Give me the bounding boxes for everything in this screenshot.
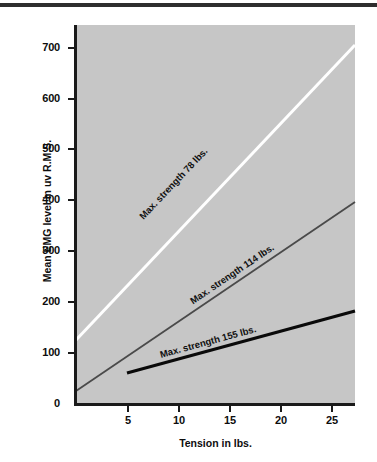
- x-tick-5: [127, 404, 129, 412]
- x-axis-title: Tension in lbs.: [76, 437, 355, 449]
- y-tick-400: [68, 199, 76, 201]
- x-tick-label-5: 5: [113, 414, 143, 426]
- y-axis: [74, 25, 77, 406]
- y-tick-label-200: 200: [16, 295, 60, 307]
- y-tick-label-500: 500: [16, 142, 60, 154]
- x-tick-10: [178, 404, 180, 412]
- x-axis: [74, 403, 355, 406]
- y-tick-300: [68, 250, 76, 252]
- x-tick-label-25: 25: [317, 414, 347, 426]
- x-tick-25: [331, 404, 333, 412]
- y-axis-title: Mean EMG level in uv R.M.S.: [41, 96, 53, 326]
- y-tick-600: [68, 98, 76, 100]
- y-tick-700: [68, 47, 76, 49]
- y-tick-200: [68, 301, 76, 303]
- y-tick-label-400: 400: [16, 193, 60, 205]
- x-tick-label-10: 10: [164, 414, 194, 426]
- x-tick-20: [280, 404, 282, 412]
- x-tick-label-20: 20: [266, 414, 296, 426]
- y-tick-label-700: 700: [16, 41, 60, 53]
- y-tick-100: [68, 352, 76, 354]
- y-tick-500: [68, 148, 76, 150]
- x-tick-15: [229, 404, 231, 412]
- y-tick-label-300: 300: [16, 244, 60, 256]
- emg-tension-chart: 700 600 500 400 300 200 100 0 5 10 15 20…: [0, 0, 377, 462]
- y-tick-label-100: 100: [16, 346, 60, 358]
- x-tick-label-15: 15: [215, 414, 245, 426]
- y-tick-label-600: 600: [16, 92, 60, 104]
- plot-area: [76, 25, 355, 404]
- y-tick-label-0: 0: [16, 397, 60, 409]
